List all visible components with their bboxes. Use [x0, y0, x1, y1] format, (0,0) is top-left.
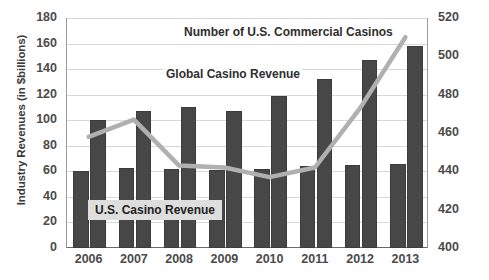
x-axis-tick-label: 2008 — [156, 252, 202, 266]
bar-us-revenue — [390, 164, 406, 248]
y-axis-right-tick-label: 520 — [438, 10, 484, 24]
bar-global-revenue — [407, 46, 423, 248]
x-axis-tick-label: 2006 — [66, 252, 112, 266]
y-axis-right-tick-label: 420 — [438, 202, 484, 216]
bar-global-revenue — [271, 96, 287, 248]
y-axis-left-tick-label: 180 — [17, 10, 57, 24]
bar-us-revenue — [300, 166, 316, 248]
bar-us-revenue — [254, 169, 270, 248]
y-axis-left-tick-label: 20 — [17, 214, 57, 228]
x-axis-tick-label: 2012 — [337, 252, 383, 266]
gridline — [67, 44, 427, 45]
x-axis-tick-label: 2009 — [201, 252, 247, 266]
x-axis-tick-label: 2010 — [247, 252, 293, 266]
y-axis-left-tick-label: 40 — [17, 189, 57, 203]
annotation-casino-count: Number of U.S. Commercial Casinos — [181, 24, 396, 40]
y-axis-right-tick-label: 500 — [438, 48, 484, 62]
bar-global-revenue — [90, 120, 106, 248]
y-axis-left-tick-label: 60 — [17, 163, 57, 177]
y-axis-left-tick-label: 120 — [17, 87, 57, 101]
y-axis-left-tick-label: 140 — [17, 61, 57, 75]
bar-us-revenue — [345, 165, 361, 248]
bar-global-revenue — [317, 79, 333, 248]
bar-global-revenue — [226, 111, 242, 248]
y-axis-left-tick-label: 80 — [17, 138, 57, 152]
y-axis-right-tick-label: 480 — [438, 87, 484, 101]
y-axis-left-tick-label: 100 — [17, 112, 57, 126]
casino-revenue-chart: Industry Revenues (in $billions) 1801601… — [0, 0, 489, 280]
annotation-global-revenue: Global Casino Revenue — [163, 66, 303, 82]
y-axis-left-tick-label: 160 — [17, 36, 57, 50]
gridline — [67, 18, 427, 19]
bar-global-revenue — [362, 60, 378, 248]
x-axis-tick-label: 2007 — [111, 252, 157, 266]
y-axis-right-tick-label: 400 — [438, 240, 484, 254]
y-axis-left-tick-label: 0 — [17, 240, 57, 254]
x-axis-tick-label: 2013 — [382, 252, 428, 266]
y-axis-right-tick-label: 440 — [438, 163, 484, 177]
annotation-us-revenue: U.S. Casino Revenue — [88, 200, 222, 220]
y-axis-right-tick-label: 460 — [438, 125, 484, 139]
bar-us-revenue — [73, 171, 89, 248]
x-axis-tick-label: 2011 — [292, 252, 338, 266]
bar-global-revenue — [136, 111, 152, 248]
bar-global-revenue — [181, 107, 197, 248]
